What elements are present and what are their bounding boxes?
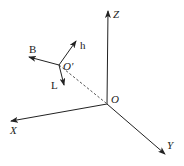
diagram-svg (0, 0, 184, 166)
local-origin-label: O' (63, 61, 73, 72)
coordinate-diagram: Z X Y O O' B h L (0, 0, 184, 166)
x-axis-label: X (10, 125, 17, 136)
z-axis-label: Z (113, 9, 119, 20)
x-axis (11, 104, 107, 121)
y-axis-label: Y (167, 140, 173, 151)
y-axis (107, 104, 165, 154)
z-axis (107, 11, 108, 104)
b-vector-label: B (29, 44, 36, 55)
l-vector-label: L (51, 80, 58, 91)
origin-label: O (111, 94, 119, 105)
b-vector (29, 57, 59, 65)
h-vector-label: h (80, 40, 86, 51)
